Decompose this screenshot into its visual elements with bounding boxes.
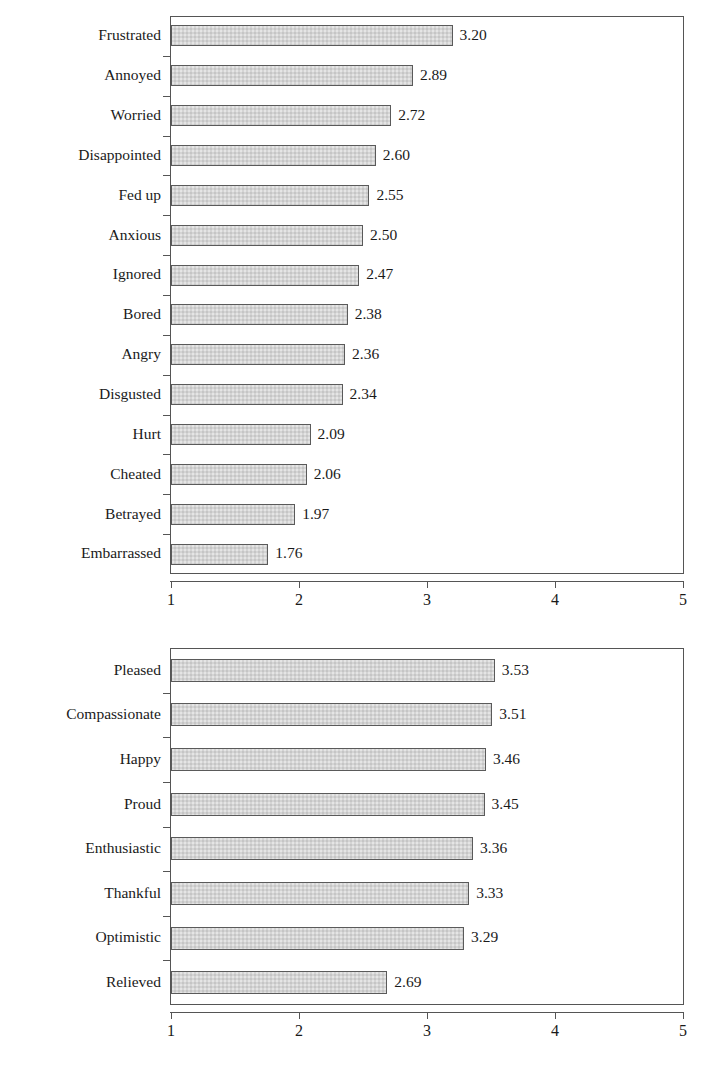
bar xyxy=(171,837,473,860)
bar-value-label: 3.36 xyxy=(480,840,507,856)
bar xyxy=(171,793,485,816)
category-label: Compassionate xyxy=(0,706,161,722)
bar-value-label: 3.53 xyxy=(502,662,529,678)
x-axis-tick xyxy=(171,1012,172,1019)
y-axis-tick xyxy=(163,871,171,872)
x-axis-tick-label: 1 xyxy=(151,1023,191,1039)
x-axis-tick xyxy=(299,1012,300,1019)
bar-value-label: 2.69 xyxy=(394,974,421,990)
x-axis-tick-label: 4 xyxy=(535,1023,575,1039)
y-axis-tick xyxy=(163,960,171,961)
category-label: Relieved xyxy=(0,974,161,990)
bar-value-label: 3.46 xyxy=(493,751,520,767)
x-axis-tick-label: 2 xyxy=(279,1023,319,1039)
bar xyxy=(171,659,495,682)
y-axis-tick xyxy=(163,737,171,738)
y-axis-tick xyxy=(163,827,171,828)
bar xyxy=(171,927,464,950)
category-label: Proud xyxy=(0,796,161,812)
x-axis-tick xyxy=(555,1012,556,1019)
x-axis-tick xyxy=(683,1012,684,1019)
bar-value-label: 3.45 xyxy=(492,796,519,812)
category-label: Optimistic xyxy=(0,929,161,945)
positive-emotions-bar-chart: 3.53Pleased3.51Compassionate3.46Happy3.4… xyxy=(0,0,710,1065)
bar xyxy=(171,703,492,726)
bar-value-label: 3.51 xyxy=(499,706,526,722)
category-label: Pleased xyxy=(0,662,161,678)
category-label: Happy xyxy=(0,751,161,767)
x-axis-tick xyxy=(427,1012,428,1019)
plot-area-2 xyxy=(170,648,684,1005)
x-axis-tick-label: 5 xyxy=(663,1023,703,1039)
bar-value-label: 3.29 xyxy=(471,929,498,945)
category-label: Enthusiastic xyxy=(0,840,161,856)
category-label: Thankful xyxy=(0,885,161,901)
bar-value-label: 3.33 xyxy=(476,885,503,901)
y-axis-tick xyxy=(163,916,171,917)
figure-root: { "figure": { "width": 710, "height": 10… xyxy=(0,0,710,1065)
bar xyxy=(171,882,469,905)
bar xyxy=(171,748,486,771)
y-axis-tick xyxy=(163,782,171,783)
x-axis-tick-label: 3 xyxy=(407,1023,447,1039)
bar xyxy=(171,971,387,994)
y-axis-tick xyxy=(163,693,171,694)
